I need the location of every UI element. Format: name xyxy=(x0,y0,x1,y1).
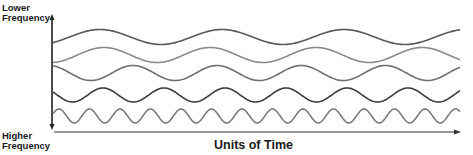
waves xyxy=(53,30,460,123)
frequency-diagram xyxy=(0,0,473,155)
wave-3 xyxy=(53,66,460,81)
y-axis-arrow-down-icon xyxy=(50,124,55,130)
wave-4 xyxy=(53,88,460,102)
wave-1 xyxy=(53,30,460,45)
wave-5 xyxy=(53,109,460,123)
y-axis-arrow-up-icon xyxy=(50,14,55,20)
x-axis-arrow-right-icon xyxy=(454,130,461,135)
wave-2 xyxy=(53,48,460,63)
